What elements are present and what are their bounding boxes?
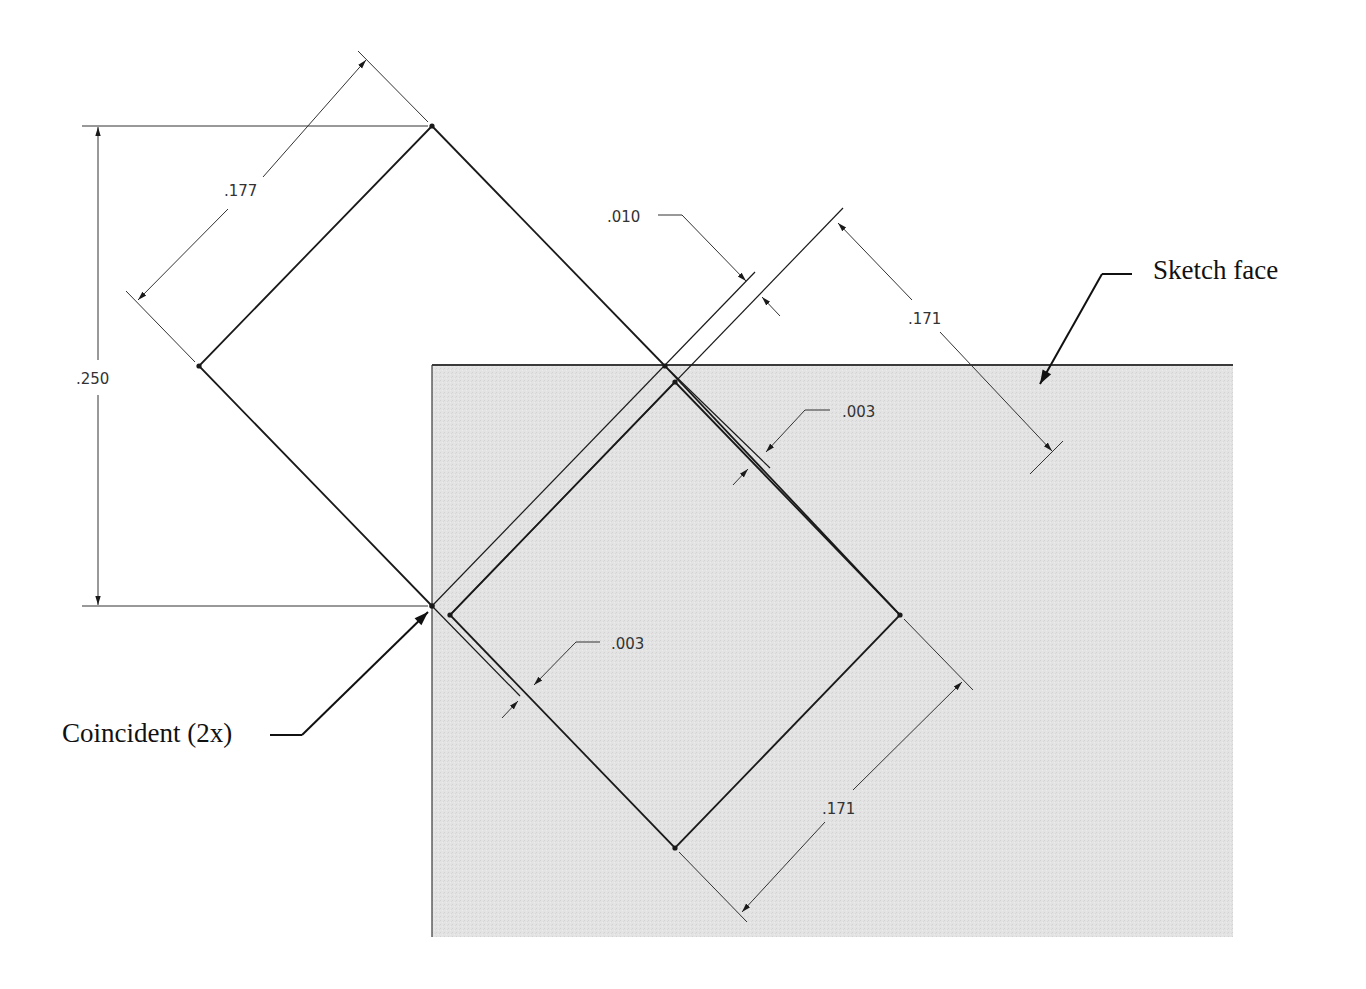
dimension-171-top-label: .171	[908, 310, 941, 328]
dimension-003-bottom-label: .003	[611, 635, 644, 653]
coincident-leader	[270, 612, 428, 735]
dimension-177-label: .177	[224, 182, 257, 200]
sketch-face	[432, 365, 1233, 937]
dimension-171-bottom-label: .171	[822, 800, 855, 818]
coincident-callout: Coincident (2x)	[62, 718, 232, 748]
dimension-010	[658, 215, 780, 316]
sketch-face-callout: Sketch face	[1153, 255, 1278, 285]
sketch-drawing-canvas: .250 .177 .010 .171 .003 .003	[0, 0, 1366, 989]
dimension-010-label: .010	[607, 208, 640, 226]
dimension-177	[126, 51, 428, 362]
dimension-003-top-label: .003	[842, 403, 875, 421]
dimension-250-label: .250	[76, 370, 109, 388]
